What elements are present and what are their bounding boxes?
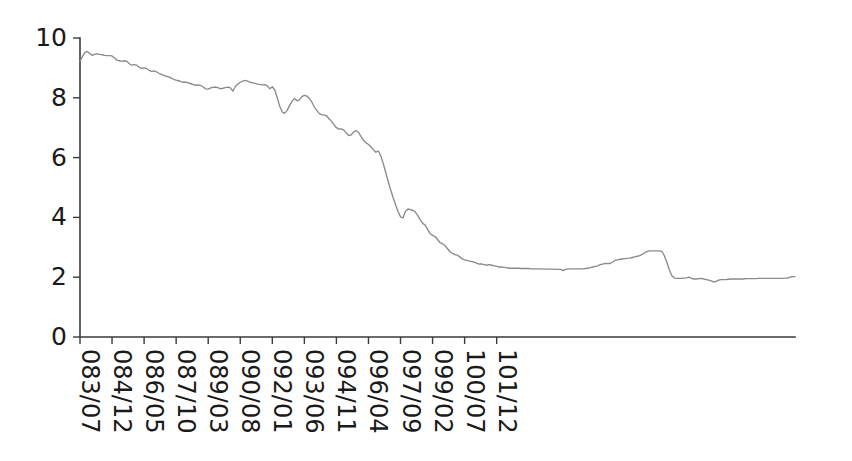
y-tick-label: 8 xyxy=(51,83,67,112)
x-tick-label: 100/07 xyxy=(461,349,489,433)
axes-group xyxy=(73,38,795,344)
y-tick-label: 2 xyxy=(51,262,67,291)
x-tick-label: 099/02 xyxy=(429,349,457,433)
y-tick-label: 4 xyxy=(51,202,67,231)
x-tick-label: 083/07 xyxy=(76,349,104,433)
y-tick-label: 6 xyxy=(51,143,67,172)
x-axis-tick-labels: 083/07084/12086/05087/10089/03090/08092/… xyxy=(76,349,521,433)
y-axis-tick-labels: 0246810 xyxy=(35,23,67,351)
x-tick-label: 087/10 xyxy=(172,349,200,433)
x-tick-label: 084/12 xyxy=(108,349,136,433)
x-tick-label: 092/01 xyxy=(268,349,296,433)
x-tick-label: 093/06 xyxy=(300,349,328,433)
line-chart: 0246810 083/07084/12086/05087/10089/0309… xyxy=(0,0,852,461)
y-tick-label: 0 xyxy=(51,322,67,351)
chart-container: 0246810 083/07084/12086/05087/10089/0309… xyxy=(0,0,852,461)
data-series-group xyxy=(80,51,795,282)
x-tick-label: 097/09 xyxy=(397,349,425,433)
x-tick-label: 090/08 xyxy=(236,349,264,433)
x-axis-ticks xyxy=(80,337,497,344)
x-tick-label: 096/04 xyxy=(364,349,392,433)
x-tick-label: 094/11 xyxy=(332,349,360,433)
data-line-value xyxy=(80,51,795,282)
x-tick-label: 089/03 xyxy=(204,349,232,433)
x-tick-label: 101/12 xyxy=(493,349,521,433)
x-tick-label: 086/05 xyxy=(140,349,168,433)
y-tick-label: 10 xyxy=(35,23,67,52)
y-axis-ticks xyxy=(73,38,80,337)
